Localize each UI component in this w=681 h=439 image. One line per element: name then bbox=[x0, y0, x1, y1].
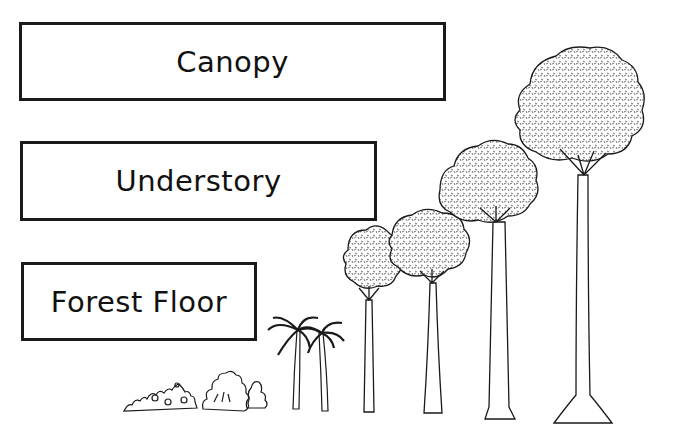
bush-icon bbox=[203, 371, 268, 411]
low-shrub-icon bbox=[124, 383, 197, 411]
palm-tree-icon bbox=[268, 318, 323, 410]
medium-tree-icon bbox=[439, 140, 538, 419]
small-tree-icon bbox=[389, 209, 470, 413]
forest-illustration bbox=[0, 0, 681, 439]
tall-emergent-tree-icon bbox=[515, 47, 644, 423]
